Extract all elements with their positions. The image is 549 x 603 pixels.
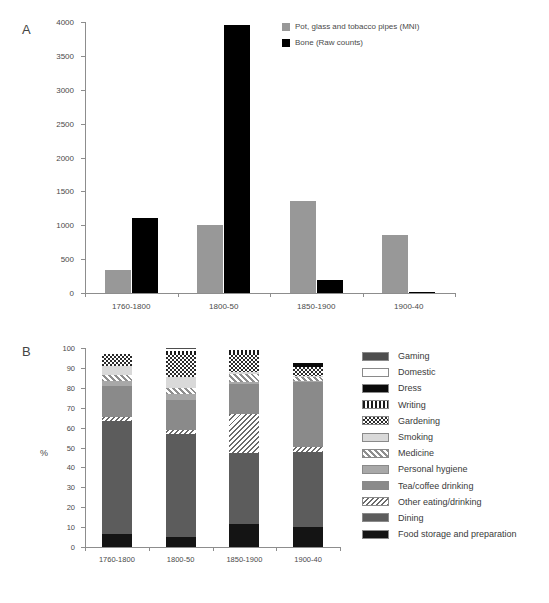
- panel-a-y-tick-label: 500: [61, 255, 74, 264]
- panel-a-legend-label: Bone (Raw counts): [295, 38, 363, 47]
- panel-b-y-tick: 80: [81, 388, 85, 389]
- panel-b-y-tick: 70: [81, 408, 85, 409]
- panel-b-y-tick: 60: [81, 428, 85, 429]
- panel-a-y-tick-label: 2500: [56, 119, 74, 128]
- panel-a-x-tick: [270, 293, 271, 297]
- panel-b-legend-label: Personal hygiene: [398, 464, 468, 474]
- panel-b-bar-segment: [102, 421, 132, 534]
- panel-b-bar-segment: [102, 354, 132, 366]
- panel-a-y-tick: 4000: [81, 22, 85, 23]
- panel-b-y-tick-label: 90: [67, 363, 75, 372]
- panel-b-legend-item: Gardening: [362, 413, 517, 429]
- panel-a-x-tick-label: 1850-1900: [297, 302, 335, 311]
- panel-b-legend-swatch: [362, 368, 389, 377]
- panel-b-x-tick-label: 1900-40: [294, 555, 322, 564]
- panel-b-legend-item: Domestic: [362, 364, 517, 380]
- panel-b-bar-segment: [102, 534, 132, 547]
- panel-b-y-axis: [85, 348, 86, 548]
- panel-b-legend-label: Dining: [398, 513, 424, 523]
- panel-b-x-tick: [149, 547, 150, 551]
- panel-a-bar: [317, 280, 343, 293]
- panel-a-bar: [132, 218, 158, 293]
- panel-a-y-tick-label: 4000: [56, 18, 74, 27]
- panel-b-bar-segment: [229, 355, 259, 372]
- panel-b-y-tick-label: 40: [67, 463, 75, 472]
- panel-b-legend-swatch: [362, 449, 389, 458]
- panel-b-legend-item: Tea/coffee drinking: [362, 478, 517, 494]
- panel-b-stacked-bar: [102, 348, 132, 547]
- panel-b-legend-item: Food storage and preparation: [362, 526, 517, 542]
- panel-b-legend-label: Gaming: [398, 351, 430, 361]
- panel-b-bar-segment: [229, 384, 259, 414]
- panel-b-legend-label: Other eating/drinking: [398, 497, 482, 507]
- panel-a-legend: Pot, glass and tobacco pipes (MNI)Bone (…: [282, 22, 420, 54]
- panel-a-y-tick-label: 1000: [56, 221, 74, 230]
- panel-b-letter: B: [22, 344, 31, 359]
- panel-b-bar-segment: [293, 382, 323, 447]
- panel-b: B % 0102030405060708090100 1760-18001800…: [0, 322, 549, 603]
- panel-b-legend-swatch: [362, 400, 389, 409]
- panel-b-x-tick: [340, 547, 341, 551]
- panel-b-y-tick-label: 0: [71, 543, 75, 552]
- panel-b-legend-item: Gaming: [362, 348, 517, 364]
- panel-b-y-tick: 10: [81, 527, 85, 528]
- panel-a-x-tick: [85, 293, 86, 297]
- panel-a-legend-item: Pot, glass and tobacco pipes (MNI): [282, 22, 420, 31]
- panel-b-bar-segment: [229, 453, 259, 524]
- panel-b-y-tick-label: 30: [67, 483, 75, 492]
- panel-a-legend-swatch: [282, 39, 290, 47]
- panel-b-legend-swatch: [362, 352, 389, 361]
- panel-b-y-tick: 50: [81, 448, 85, 449]
- panel-b-y-tick-label: 10: [67, 523, 75, 532]
- panel-a-plot-area: 05001000150020002500300035004000 1760-18…: [85, 22, 455, 294]
- panel-b-bar-segment: [166, 377, 196, 388]
- panel-b-bar-segment: [166, 434, 196, 537]
- panel-b-x-tick: [213, 547, 214, 551]
- panel-b-bar-segment: [229, 414, 259, 453]
- panel-a-x-tick: [455, 293, 456, 297]
- panel-a-bar: [290, 201, 316, 293]
- panel-b-legend-item: Smoking: [362, 429, 517, 445]
- panel-b-plot-area: 0102030405060708090100 1760-18001800-501…: [85, 348, 340, 548]
- panel-b-y-axis-label: %: [40, 448, 48, 458]
- panel-a-legend-label: Pot, glass and tobacco pipes (MNI): [295, 22, 420, 31]
- panel-a-bar: [409, 292, 435, 293]
- panel-a-y-tick-label: 3500: [56, 51, 74, 60]
- panel-b-y-tick-label: 100: [62, 344, 75, 353]
- panel-a-x-tick: [363, 293, 364, 297]
- panel-a-legend-item: Bone (Raw counts): [282, 38, 420, 47]
- panel-b-legend-label: Dress: [398, 383, 422, 393]
- panel-b-legend-swatch: [362, 513, 389, 522]
- panel-b-legend-label: Medicine: [398, 448, 434, 458]
- panel-b-legend-item: Medicine: [362, 445, 517, 461]
- panel-b-bar-segment: [293, 452, 323, 528]
- panel-b-legend-swatch: [362, 481, 389, 490]
- panel-a-y-tick: 1500: [81, 191, 85, 192]
- panel-a-y-tick: 3500: [81, 56, 85, 57]
- panel-b-bar-segment: [229, 524, 259, 547]
- panel-a-bar: [382, 235, 408, 293]
- panel-b-x-tick-label: 1800-50: [167, 555, 195, 564]
- panel-b-stacked-bar: [229, 348, 259, 547]
- panel-b-x-tick: [276, 547, 277, 551]
- panel-a-legend-swatch: [282, 23, 290, 31]
- panel-b-y-tick-label: 20: [67, 503, 75, 512]
- panel-b-legend-item: Dining: [362, 510, 517, 526]
- panel-a-bar: [197, 225, 223, 293]
- panel-a-bar: [224, 25, 250, 293]
- panel-b-stacked-bar: [166, 348, 196, 547]
- panel-a-y-tick: 2500: [81, 124, 85, 125]
- panel-b-bar-segment: [166, 537, 196, 547]
- panel-a: A 05001000150020002500300035004000 1760-…: [0, 0, 549, 320]
- panel-a-y-tick-label: 3000: [56, 85, 74, 94]
- panel-b-legend-label: Food storage and preparation: [398, 529, 517, 539]
- panel-b-y-tick: 30: [81, 487, 85, 488]
- panel-a-y-tick-label: 1500: [56, 187, 74, 196]
- panel-a-y-tick-label: 2000: [56, 153, 74, 162]
- panel-b-legend-label: Gardening: [398, 416, 440, 426]
- panel-b-y-tick-label: 80: [67, 383, 75, 392]
- panel-b-bar-segment: [229, 374, 259, 383]
- panel-b-legend-swatch: [362, 465, 389, 474]
- panel-b-x-tick: [85, 547, 86, 551]
- panel-a-y-tick: 1000: [81, 225, 85, 226]
